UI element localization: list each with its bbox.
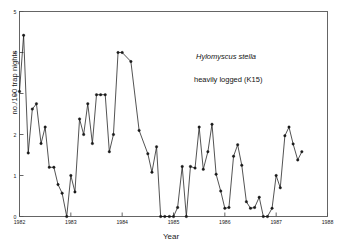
- data-point: [296, 159, 299, 162]
- data-point: [249, 207, 252, 210]
- x-tick-label: 1983: [65, 219, 77, 225]
- data-point: [22, 34, 25, 37]
- data-point: [168, 215, 171, 218]
- chart-plot-area: [0, 0, 342, 248]
- x-tick-label: 1982: [14, 219, 26, 225]
- series-line-0: [20, 35, 302, 216]
- x-tick-label: 1985: [168, 219, 180, 225]
- data-point: [262, 215, 265, 218]
- data-point: [117, 51, 120, 54]
- data-point: [40, 142, 43, 145]
- data-point: [236, 144, 239, 147]
- data-point: [95, 93, 98, 96]
- data-point: [172, 215, 175, 218]
- data-point: [44, 126, 47, 128]
- data-point: [284, 134, 287, 137]
- data-point: [82, 133, 85, 136]
- data-point: [27, 152, 30, 155]
- data-point: [258, 196, 261, 199]
- data-point: [185, 215, 188, 218]
- data-point: [99, 93, 102, 96]
- data-point: [271, 207, 274, 210]
- data-point: [78, 118, 81, 121]
- data-point: [181, 165, 184, 168]
- x-tick-label: 1986: [219, 219, 231, 225]
- data-point: [159, 215, 162, 218]
- data-point: [211, 123, 214, 126]
- data-point: [279, 187, 282, 190]
- data-point: [215, 173, 218, 176]
- data-point: [48, 166, 51, 169]
- data-point: [87, 103, 90, 106]
- data-point: [292, 143, 295, 146]
- x-tick-label: 1987: [270, 219, 282, 225]
- data-point: [53, 166, 56, 169]
- data-point: [91, 142, 94, 145]
- y-tick-label: 4: [5, 50, 17, 56]
- data-point: [65, 215, 68, 218]
- y-tick-label: 1: [5, 173, 17, 179]
- data-point: [31, 108, 34, 111]
- data-point: [35, 103, 38, 106]
- data-point: [301, 150, 304, 153]
- data-point: [232, 155, 235, 158]
- data-point: [253, 206, 256, 209]
- data-point: [121, 51, 124, 54]
- data-point: [108, 150, 111, 153]
- y-tick-label: 3: [5, 91, 17, 97]
- y-tick-label: 0: [5, 214, 17, 220]
- data-point: [104, 93, 107, 96]
- data-point: [147, 153, 150, 156]
- data-point: [164, 215, 167, 218]
- chart-figure: no./100 trap nights Year Hylomyscus stel…: [0, 0, 342, 248]
- data-point: [207, 150, 210, 153]
- data-point: [275, 174, 278, 177]
- data-point: [151, 171, 154, 174]
- data-point: [219, 190, 222, 193]
- data-point: [138, 129, 141, 132]
- data-point: [245, 200, 248, 203]
- plot-frame: [20, 12, 328, 217]
- data-point: [130, 60, 133, 63]
- data-point: [74, 191, 77, 194]
- data-point: [198, 126, 201, 128]
- x-tick-label: 1984: [116, 219, 128, 225]
- data-point: [57, 183, 60, 186]
- data-point: [176, 206, 179, 209]
- y-tick-label: 2: [5, 132, 17, 138]
- data-point: [194, 167, 197, 170]
- data-point: [266, 215, 269, 218]
- y-tick-label: 5: [5, 9, 17, 15]
- data-point: [189, 165, 192, 168]
- x-tick-label: 1988: [322, 219, 334, 225]
- data-point: [70, 174, 73, 177]
- data-point: [241, 164, 244, 167]
- data-point: [288, 126, 291, 128]
- data-point: [202, 168, 205, 171]
- data-point: [18, 90, 21, 93]
- data-point: [224, 207, 227, 210]
- data-point: [61, 192, 64, 195]
- data-point: [228, 206, 231, 209]
- data-point: [112, 133, 115, 136]
- data-point: [155, 146, 158, 149]
